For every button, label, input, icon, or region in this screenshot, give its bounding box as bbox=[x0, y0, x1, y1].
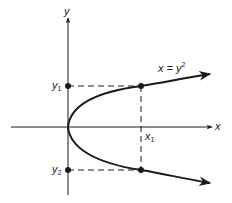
parabola-diagram bbox=[0, 0, 232, 203]
x-axis-label-text: x bbox=[215, 120, 221, 132]
equation-exponent: 2 bbox=[182, 61, 186, 68]
y-axis-label-text: y bbox=[64, 5, 70, 17]
y1-label: y1 bbox=[52, 80, 61, 92]
x1-label-sub: 1 bbox=[151, 136, 155, 143]
x1-label: x1 bbox=[145, 131, 154, 143]
point-y2-on-axis bbox=[65, 167, 71, 173]
equation-lhs: x = y bbox=[158, 62, 182, 74]
y2-label: y2 bbox=[52, 164, 61, 176]
parabola-upper-branch bbox=[68, 74, 210, 127]
y1-label-sub: 1 bbox=[58, 85, 62, 92]
x-axis-label: x bbox=[215, 121, 221, 132]
parabola-lower-branch bbox=[68, 127, 210, 183]
y-axis-label: y bbox=[64, 6, 70, 17]
y2-label-sub: 2 bbox=[58, 169, 62, 176]
point-x1-y2-on-curve bbox=[138, 167, 144, 173]
equation-label: x = y2 bbox=[158, 61, 185, 74]
point-x1-y1-on-curve bbox=[138, 83, 144, 89]
point-y1-on-axis bbox=[65, 83, 71, 89]
